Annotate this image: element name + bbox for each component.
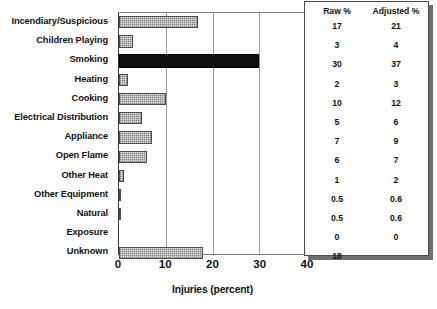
- category-label: Appliance: [0, 127, 113, 146]
- table-cell-adjusted: 3: [394, 79, 399, 89]
- table-cell-adjusted: 4: [394, 40, 399, 50]
- bar-electrical-distribution: [119, 112, 142, 124]
- table-row: 1012: [305, 97, 428, 116]
- category-label: Electrical Distribution: [0, 108, 113, 127]
- table-row: 23: [305, 78, 428, 97]
- category-label: Smoking: [0, 50, 113, 69]
- bar-open-flame: [119, 151, 147, 163]
- x-tick-label: 0: [115, 258, 121, 270]
- table-row: 1721: [305, 20, 428, 39]
- category-axis-labels: Incendiary/SuspiciousChildren PlayingSmo…: [0, 12, 113, 261]
- category-label: Children Playing: [0, 31, 113, 50]
- bar-appliance: [119, 131, 152, 143]
- table-body: 1721343037231012567967120.50.60.50.60018: [305, 20, 428, 269]
- table-row: 0.50.6: [305, 212, 428, 231]
- table-row: 0.50.6: [305, 193, 428, 212]
- table-cell-raw: 0: [335, 232, 340, 242]
- category-label: Natural: [0, 204, 113, 223]
- x-tick-label: 30: [253, 258, 266, 270]
- table-cell-adjusted: 37: [391, 59, 401, 69]
- table-header-raw: Raw %: [323, 6, 351, 16]
- bar-natural: [119, 208, 121, 220]
- bar-row: [119, 90, 306, 109]
- bar-row: [119, 32, 306, 51]
- table-cell-adjusted: 0.6: [390, 194, 402, 204]
- table-cell-raw: 17: [332, 21, 342, 31]
- table-row: 3037: [305, 58, 428, 77]
- bar-smoking: [119, 54, 259, 68]
- table-cell-raw: 10: [332, 98, 342, 108]
- bar-row: [119, 224, 306, 243]
- category-label: Open Flame: [0, 146, 113, 165]
- table-row: 34: [305, 39, 428, 58]
- category-label: Cooking: [0, 89, 113, 108]
- table-cell-raw: 3: [335, 40, 340, 50]
- bar-row: [119, 109, 306, 128]
- category-label: Other Heat: [0, 166, 113, 185]
- category-label: Heating: [0, 70, 113, 89]
- x-axis-title: Injuries (percent): [118, 284, 307, 295]
- category-label: Other Equipment: [0, 185, 113, 204]
- bar-incendiary-suspicious: [119, 16, 198, 28]
- table-row: 12: [305, 174, 428, 193]
- bar-row: [119, 128, 306, 147]
- table-cell-adjusted: 0.6: [390, 213, 402, 223]
- table-header-row: Raw % Adjusted %: [305, 6, 428, 20]
- bar-row: [119, 147, 306, 166]
- table-cell-adjusted: 0: [394, 232, 399, 242]
- values-table: Raw % Adjusted % 17213430372310125679671…: [304, 1, 429, 256]
- table-cell-adjusted: 21: [391, 21, 401, 31]
- table-cell-raw: 5: [335, 117, 340, 127]
- table-cell-raw: 18: [332, 251, 342, 261]
- x-tick-label: 10: [159, 258, 172, 270]
- bar-cooking: [119, 93, 166, 105]
- bar-heating: [119, 74, 128, 86]
- bar-row: [119, 71, 306, 90]
- table-cell-adjusted: 12: [391, 98, 401, 108]
- table-row: 00: [305, 231, 428, 250]
- table-cell-raw: 30: [332, 59, 342, 69]
- table-cell-raw: 2: [335, 79, 340, 89]
- table-row: 79: [305, 135, 428, 154]
- table-row: 56: [305, 116, 428, 135]
- bar-row: [119, 13, 306, 32]
- bar-row: [119, 186, 306, 205]
- category-label: Incendiary/Suspicious: [0, 12, 113, 31]
- table-cell-raw: 0.5: [331, 194, 343, 204]
- table-cell-raw: 1: [335, 175, 340, 185]
- bar-unknown: [119, 247, 203, 259]
- table-row: 18: [305, 250, 428, 269]
- bar-children-playing: [119, 35, 133, 47]
- table-header-adjusted: Adjusted %: [373, 6, 420, 16]
- table-cell-raw: 0.5: [331, 213, 343, 223]
- table-cell-adjusted: 7: [394, 155, 399, 165]
- bar-row: [119, 205, 306, 224]
- table-row: 67: [305, 154, 428, 173]
- table-cell-raw: 6: [335, 155, 340, 165]
- table-cell-raw: 7: [335, 136, 340, 146]
- plot-area: [118, 12, 307, 255]
- injuries-by-fire-cause-figure: Incendiary/SuspiciousChildren PlayingSmo…: [0, 0, 437, 309]
- table-cell-adjusted: 6: [394, 117, 399, 127]
- category-label: Exposure: [0, 223, 113, 242]
- bar-series: [119, 13, 306, 254]
- category-label: Unknown: [0, 242, 113, 261]
- x-tick-label: 20: [206, 258, 219, 270]
- x-axis-ticks: 010203040: [118, 258, 307, 274]
- table-cell-adjusted: 9: [394, 136, 399, 146]
- bar-other-heat: [119, 170, 124, 182]
- table-cell-adjusted: 2: [394, 175, 399, 185]
- bar-row: [119, 51, 306, 70]
- bar-row: [119, 167, 306, 186]
- bar-other-equipment: [119, 189, 121, 201]
